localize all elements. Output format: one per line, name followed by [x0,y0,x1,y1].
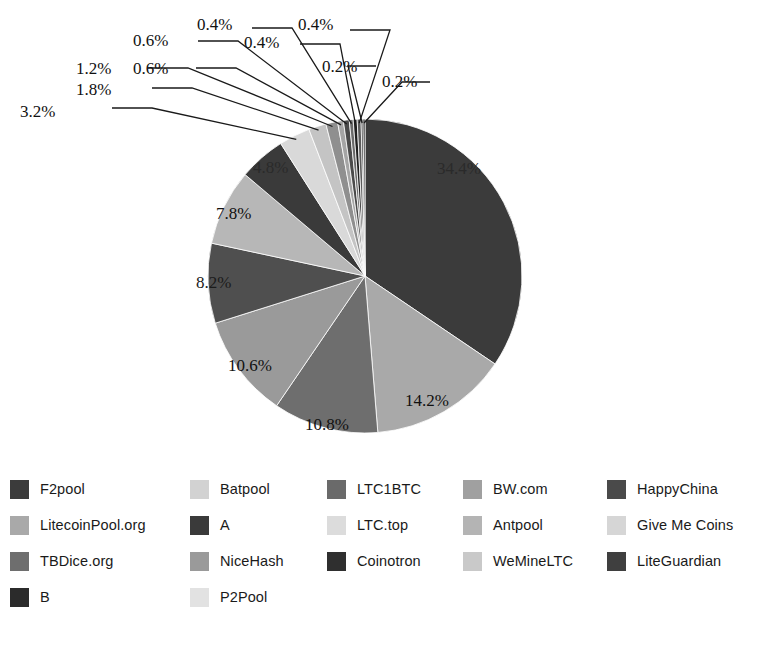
legend-swatch-icon [607,516,626,535]
slice-label-0-4-c: 0.4% [298,16,333,33]
slice-label-1-2: 1.2% [76,60,111,77]
legend-item[interactable]: F2pool [10,478,85,500]
legend-item[interactable]: BW.com [463,478,548,500]
legend-item[interactable]: NiceHash [190,550,284,572]
legend-swatch-icon [327,516,346,535]
legend-item[interactable]: Antpool [463,514,543,536]
legend-label: Give Me Coins [637,517,733,533]
legend-item[interactable]: LitecoinPool.org [10,514,146,536]
legend-label: LTC.top [357,517,408,533]
legend-item[interactable]: TBDice.org [10,550,114,572]
legend-item[interactable]: P2Pool [190,586,267,608]
chart-legend: F2poolLitecoinPool.orgTBDice.orgBBatpool… [0,472,759,622]
legend-swatch-icon [10,552,29,571]
slice-label-0-6-b: 0.6% [133,32,168,49]
slice-label-10-8: 10.8% [305,416,349,433]
legend-label: HappyChina [637,481,718,497]
slice-label-0-4-a: 0.4% [197,16,232,33]
legend-item[interactable]: Coinotron [327,550,421,572]
legend-label: Antpool [493,517,543,533]
legend-swatch-icon [463,552,482,571]
leader-line [152,88,319,130]
slice-label-0-2-a: 0.2% [322,58,357,75]
legend-label: Batpool [220,481,270,497]
legend-item[interactable]: A [190,514,230,536]
legend-label: LiteGuardian [637,553,721,569]
legend-label: TBDice.org [40,553,114,569]
legend-label: F2pool [40,481,85,497]
legend-swatch-icon [463,516,482,535]
legend-item[interactable]: LTC.top [327,514,408,536]
slice-label-34-4: 34.4% [437,160,481,177]
legend-label: P2Pool [220,589,267,605]
legend-item[interactable]: LTC1BTC [327,478,421,500]
slice-label-4-8: 4.8% [253,159,288,176]
legend-swatch-icon [190,480,209,499]
slice-label-7-8: 7.8% [216,205,251,222]
slice-label-0-2-b: 0.2% [382,73,417,90]
slice-label-8-2: 8.2% [196,274,231,291]
legend-label: BW.com [493,481,548,497]
legend-label: B [40,589,50,605]
legend-label: LTC1BTC [357,481,421,497]
slice-label-0-4-b: 0.4% [244,34,279,51]
pie-chart: 34.4% 14.2% 10.8% 10.6% 8.2% 7.8% 4.8% 3… [0,0,759,472]
legend-item[interactable]: B [10,586,50,608]
legend-item[interactable]: LiteGuardian [607,550,721,572]
legend-label: WeMineLTC [493,553,573,569]
legend-swatch-icon [10,516,29,535]
legend-swatch-icon [190,516,209,535]
leader-line [300,44,355,123]
slice-label-3-2: 3.2% [20,103,55,120]
pie-svg [0,0,759,472]
slice-label-10-6: 10.6% [228,357,272,374]
leader-line [198,41,347,124]
legend-label: Coinotron [357,553,421,569]
legend-swatch-icon [327,552,346,571]
slice-label-1-8: 1.8% [76,81,111,98]
legend-label: A [220,517,230,533]
chart-canvas: 34.4% 14.2% 10.8% 10.6% 8.2% 7.8% 4.8% 3… [0,0,759,650]
legend-swatch-icon [190,588,209,607]
legend-item[interactable]: Give Me Coins [607,514,733,536]
legend-item[interactable]: Batpool [190,478,270,500]
slice-label-14-2: 14.2% [405,392,449,409]
legend-item[interactable]: WeMineLTC [463,550,573,572]
legend-swatch-icon [10,480,29,499]
leader-line [112,108,296,139]
legend-label: LitecoinPool.org [40,517,146,533]
legend-swatch-icon [607,480,626,499]
leader-line [148,68,333,126]
slice-label-0-6-a: 0.6% [133,60,168,77]
legend-item[interactable]: HappyChina [607,478,718,500]
legend-swatch-icon [10,588,29,607]
legend-swatch-icon [607,552,626,571]
legend-label: NiceHash [220,553,284,569]
legend-swatch-icon [463,480,482,499]
legend-swatch-icon [327,480,346,499]
legend-swatch-icon [190,552,209,571]
